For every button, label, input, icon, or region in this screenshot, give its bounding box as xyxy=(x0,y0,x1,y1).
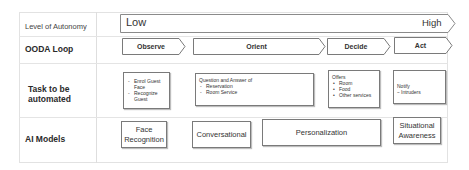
ooda-stage-act: Act xyxy=(394,37,453,54)
row-label-models: AI Models xyxy=(25,134,65,144)
row-label-tasks: Task to be automated xyxy=(28,84,88,104)
row-divider xyxy=(19,117,448,118)
ooda-stage-orient: Orient xyxy=(193,38,326,55)
model-box-face-recognition: Face Recognition xyxy=(121,121,167,148)
ooda-stage-decide: Decide xyxy=(327,38,391,55)
task-box-orient: Question and Answer of Reservation Room … xyxy=(195,73,314,106)
row-label-autonomy: Level of Autonomy xyxy=(25,22,87,32)
task-item: Enrol Guest Face xyxy=(127,78,166,90)
task-item: Room Service xyxy=(199,89,310,95)
model-box-conversational: Conversational xyxy=(192,121,251,148)
task-item: -Intruders xyxy=(397,89,442,95)
autonomy-high-label: High xyxy=(422,17,442,28)
ooda-stage-observe: Observe xyxy=(122,38,186,55)
task-item: Recognize Guest xyxy=(127,90,166,102)
task-item: Other services xyxy=(332,92,376,98)
label-column-divider xyxy=(96,12,97,163)
autonomy-arrow-shape xyxy=(120,14,456,33)
model-box-situational-awareness: Situational Awareness xyxy=(393,117,441,144)
row-divider xyxy=(19,36,448,37)
task-box-act: Notify -Intruders xyxy=(393,70,446,104)
task-box-decide: Offers Room Food Other services xyxy=(328,70,380,108)
autonomy-low-label: Low xyxy=(126,16,146,28)
task-box-observe: Enrol Guest Face Recognize Guest xyxy=(123,72,170,109)
row-label-ooda: OODA Loop xyxy=(25,44,73,54)
row-divider xyxy=(19,63,448,64)
autonomy-arrow: Low High xyxy=(120,14,456,33)
model-box-personalization: Personalization xyxy=(262,119,381,146)
